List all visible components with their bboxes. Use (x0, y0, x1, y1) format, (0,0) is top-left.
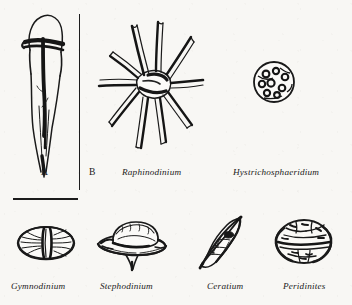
stephodinium-label: Stephodinium (100, 281, 153, 291)
gymnodinium-drawing (10, 220, 82, 268)
peridinites-drawing (272, 216, 336, 268)
ceratium-label: Ceratium (207, 281, 243, 291)
hystrichosphaeridium-label: Hystrichosphaeridium (233, 167, 319, 177)
specimen-b-label: B (89, 166, 96, 177)
specimen-a-drawing (18, 6, 76, 178)
hystrichosphaeridium-drawing (222, 20, 326, 150)
peridinites-label: Peridinites (283, 281, 326, 291)
specimen-a-label: A (41, 166, 48, 177)
raphinodinium-label: Raphinodinium (122, 167, 181, 177)
gymnodinium-label: Gymnodinium (11, 281, 65, 291)
stephodinium-drawing (92, 214, 172, 272)
raphinodinium-drawing (96, 18, 204, 154)
dinoflagellate-figure-plate: A B Raphinodinium Hystrichosphaeridium (0, 0, 352, 305)
ceratium-drawing (188, 212, 252, 274)
scale-bar (13, 198, 78, 200)
panel-divider (79, 14, 80, 190)
